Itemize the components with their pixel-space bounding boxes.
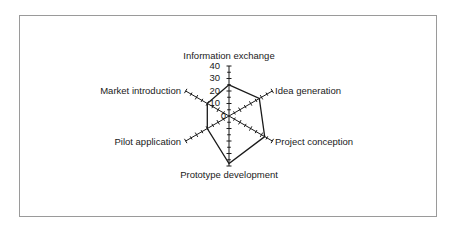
- tick-label-0: 0: [221, 110, 226, 121]
- data-series-polygon: [207, 85, 264, 164]
- tick-label-10: 10: [209, 97, 220, 108]
- category-label-project-conception: Project conception: [275, 136, 353, 147]
- tick-label-30: 30: [209, 72, 220, 83]
- category-label-idea-generation: Idea generation: [275, 85, 341, 96]
- category-label-information-exchange: Information exchange: [183, 50, 274, 61]
- tick-label-40: 40: [209, 60, 220, 71]
- radar-chart: 40 30 20 10 0 Information exchange Idea …: [0, 0, 458, 231]
- radar-axes: [184, 66, 273, 166]
- category-label-prototype-development: Prototype development: [180, 169, 278, 180]
- radial-tick-labels: 40 30 20 10 0: [209, 60, 226, 121]
- category-label-pilot-application: Pilot application: [114, 136, 181, 147]
- category-label-market-introduction: Market introduction: [100, 85, 181, 96]
